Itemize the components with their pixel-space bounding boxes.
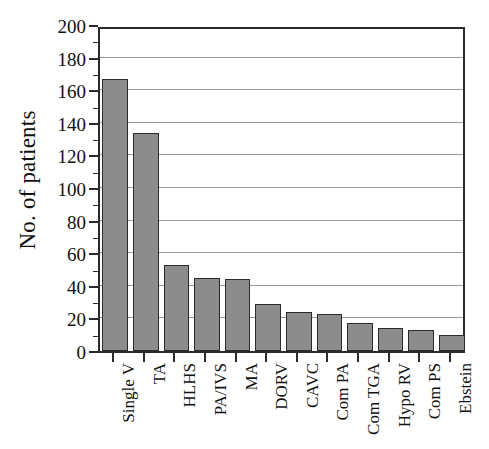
x-axis-labels: Single VTAHLHSPA/IVSMADORVCAVCCom PACom … (98, 363, 465, 449)
x-tick-label: Ebstein (457, 363, 474, 449)
x-tick-label: Com PS (426, 363, 443, 449)
y-tick (89, 188, 98, 190)
x-tick (296, 353, 298, 362)
bar (194, 278, 220, 351)
x-tick (357, 353, 359, 362)
y-tick (89, 58, 98, 60)
x-tick-label: MA (243, 363, 260, 449)
y-tick-minor (93, 75, 98, 76)
x-tick-label: Single V (120, 363, 137, 449)
x-tick (143, 353, 145, 362)
y-tick (89, 25, 98, 27)
y-tick-label: 100 (26, 180, 86, 199)
y-tick-minor (93, 108, 98, 109)
y-tick-minor (93, 303, 98, 304)
y-tick (89, 351, 98, 353)
y-tick (89, 221, 98, 223)
x-tick-label: Hypo RV (396, 363, 413, 449)
x-axis-ticks (98, 353, 465, 363)
y-tick (89, 286, 98, 288)
y-tick (89, 318, 98, 320)
y-tick (89, 123, 98, 125)
y-tick-label: 80 (26, 213, 86, 232)
x-tick (326, 353, 328, 362)
x-tick-label: TA (151, 363, 168, 449)
y-tick-label: 60 (26, 245, 86, 264)
bar (286, 312, 312, 351)
bar (439, 335, 465, 351)
y-tick-label: 180 (26, 50, 86, 69)
x-tick (235, 353, 237, 362)
y-tick-minor (93, 336, 98, 337)
bar (164, 265, 190, 351)
bar-chart: No. of patients 020406080100120140160180… (0, 0, 489, 449)
x-tick (204, 353, 206, 362)
bar (378, 328, 404, 351)
y-tick-minor (93, 42, 98, 43)
x-tick-label: PA/IVS (212, 363, 229, 449)
y-tick-minor (93, 140, 98, 141)
y-tick (89, 155, 98, 157)
bar (102, 79, 128, 351)
bar (133, 133, 159, 351)
y-tick-minor (93, 173, 98, 174)
x-tick-label: CAVC (304, 363, 321, 449)
y-tick-label: 160 (26, 82, 86, 101)
y-tick-label: 40 (26, 278, 86, 297)
y-tick-label: 200 (26, 17, 86, 36)
bar (255, 304, 281, 351)
y-tick-minor (93, 271, 98, 272)
x-tick-label: DORV (273, 363, 290, 449)
x-tick (265, 353, 267, 362)
y-tick-minor (93, 205, 98, 206)
bar (347, 323, 373, 351)
y-tick-label: 0 (26, 343, 86, 362)
bars-layer (100, 29, 463, 351)
y-tick-label: 120 (26, 147, 86, 166)
y-tick (89, 90, 98, 92)
x-tick (388, 353, 390, 362)
x-tick-label: Com PA (334, 363, 351, 449)
bar (408, 330, 434, 351)
x-tick (173, 353, 175, 362)
x-tick (112, 353, 114, 362)
plot-area (98, 27, 465, 353)
y-tick-minor (93, 238, 98, 239)
y-tick-label: 20 (26, 310, 86, 329)
bar (225, 279, 251, 351)
x-tick-label: Com TGA (365, 363, 382, 449)
x-tick-label: HLHS (181, 363, 198, 449)
y-tick (89, 253, 98, 255)
y-tick-label: 140 (26, 115, 86, 134)
x-tick (418, 353, 420, 362)
bar (317, 314, 343, 351)
x-tick (449, 353, 451, 362)
